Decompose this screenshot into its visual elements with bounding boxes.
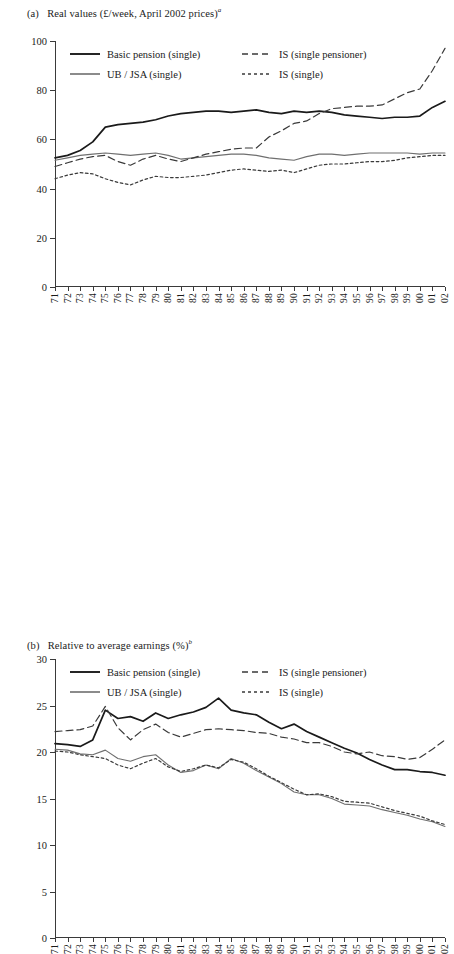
panel-a-footnote-marker: a bbox=[218, 6, 222, 14]
x-tick-label: 89 bbox=[276, 293, 286, 303]
y-tick-label: 60 bbox=[37, 134, 48, 145]
x-tick bbox=[445, 287, 446, 291]
y-tick-label: 20 bbox=[37, 747, 48, 758]
x-tick-label: 79 bbox=[151, 293, 161, 303]
x-tick-label: 96 bbox=[365, 293, 375, 303]
x-tick-label: 82 bbox=[188, 293, 198, 303]
y-tick-label: 15 bbox=[37, 793, 48, 804]
dashed-line-icon bbox=[242, 49, 272, 59]
legend-row: UB / JSA (single) IS (single) bbox=[70, 64, 366, 84]
y-tick-label: 5 bbox=[42, 886, 47, 897]
x-tick-label: 86 bbox=[239, 293, 249, 303]
solid-line-icon bbox=[70, 49, 100, 59]
x-tick bbox=[55, 287, 56, 291]
x-tick-label: 83 bbox=[201, 293, 211, 303]
x-tick-label: 75 bbox=[100, 944, 110, 954]
legend-item-is-single-pensioner: IS (single pensioner) bbox=[242, 49, 366, 60]
y-tick-label: 0 bbox=[42, 282, 47, 293]
x-tick bbox=[432, 938, 433, 942]
legend-label-is-single: IS (single) bbox=[279, 69, 323, 80]
x-tick-label: 91 bbox=[302, 944, 312, 954]
x-tick bbox=[156, 287, 157, 291]
legend-item-basic-pension: Basic pension (single) bbox=[70, 667, 242, 678]
y-tick-label: 25 bbox=[37, 700, 48, 711]
x-tick-label: 90 bbox=[289, 944, 299, 954]
panel-b-footnote-marker: b bbox=[189, 638, 193, 646]
legend-label-basic-pension: Basic pension (single) bbox=[107, 667, 200, 678]
x-tick bbox=[80, 938, 81, 942]
x-tick-label: 80 bbox=[163, 944, 173, 954]
panel-a-label: (a) bbox=[27, 8, 39, 19]
x-tick-label: 93 bbox=[327, 293, 337, 303]
legend-label-is-single-pensioner: IS (single pensioner) bbox=[279, 49, 366, 60]
x-tick-label: 81 bbox=[176, 293, 186, 303]
x-tick bbox=[407, 938, 408, 942]
x-tick bbox=[294, 938, 295, 942]
x-tick-label: 88 bbox=[264, 944, 274, 954]
x-tick-label: 02 bbox=[440, 944, 450, 954]
legend-row: UB / JSA (single) IS (single) bbox=[70, 682, 366, 702]
x-tick-label: 00 bbox=[415, 293, 425, 303]
x-tick-label: 98 bbox=[390, 293, 400, 303]
x-tick-label: 74 bbox=[88, 944, 98, 954]
legend-item-ub-jsa: UB / JSA (single) bbox=[70, 69, 242, 80]
x-tick bbox=[130, 287, 131, 291]
legend-b: Basic pension (single) IS (single pensio… bbox=[70, 662, 366, 702]
x-tick-label: 95 bbox=[352, 293, 362, 303]
x-tick bbox=[55, 938, 56, 942]
x-tick bbox=[105, 938, 106, 942]
x-tick bbox=[105, 287, 106, 291]
legend-item-is-single-pensioner: IS (single pensioner) bbox=[242, 667, 366, 678]
panel-b-label: (b) bbox=[27, 640, 40, 651]
x-tick bbox=[332, 938, 333, 942]
x-tick-label: 99 bbox=[402, 944, 412, 954]
x-tick bbox=[281, 287, 282, 291]
x-tick bbox=[281, 938, 282, 942]
x-tick bbox=[420, 938, 421, 942]
panel-a-title: (a) Real values (£/week, April 2002 pric… bbox=[27, 6, 221, 19]
x-tick-label: 96 bbox=[365, 944, 375, 954]
x-tick bbox=[395, 938, 396, 942]
x-tick bbox=[118, 938, 119, 942]
x-tick-label: 97 bbox=[377, 293, 387, 303]
legend-label-is-single: IS (single) bbox=[279, 687, 323, 698]
y-tick-label: 20 bbox=[37, 232, 48, 243]
x-tick bbox=[256, 938, 257, 942]
x-tick-label: 77 bbox=[125, 293, 135, 303]
panel-b-title-text: Relative to average earnings (%) bbox=[48, 640, 189, 651]
x-tick-label: 93 bbox=[327, 944, 337, 954]
x-tick bbox=[206, 287, 207, 291]
dotted-line-icon bbox=[242, 69, 272, 79]
x-tick-label: 80 bbox=[163, 293, 173, 303]
x-tick bbox=[294, 287, 295, 291]
x-tick-label: 73 bbox=[75, 944, 85, 954]
x-tick-label: 98 bbox=[390, 944, 400, 954]
x-tick bbox=[244, 938, 245, 942]
x-tick bbox=[382, 287, 383, 291]
legend-item-is-single: IS (single) bbox=[242, 687, 323, 698]
panel-a-title-text: Real values (£/week, April 2002 prices) bbox=[47, 8, 218, 19]
x-tick bbox=[445, 938, 446, 942]
x-tick bbox=[80, 287, 81, 291]
y-tick-label: 100 bbox=[31, 36, 47, 47]
x-tick bbox=[93, 938, 94, 942]
x-tick bbox=[357, 938, 358, 942]
x-tick-label: 78 bbox=[138, 944, 148, 954]
x-tick bbox=[319, 287, 320, 291]
x-tick-label: 82 bbox=[188, 944, 198, 954]
x-tick bbox=[168, 938, 169, 942]
x-tick bbox=[370, 938, 371, 942]
legend-label-is-single-pensioner: IS (single pensioner) bbox=[279, 667, 366, 678]
x-tick-label: 99 bbox=[402, 293, 412, 303]
x-tick bbox=[344, 938, 345, 942]
x-tick-label: 73 bbox=[75, 293, 85, 303]
panel-real-values: (a) Real values (£/week, April 2002 pric… bbox=[0, 0, 454, 318]
x-tick-label: 71 bbox=[50, 944, 60, 954]
x-tick-label: 87 bbox=[251, 293, 261, 303]
x-tick bbox=[357, 287, 358, 291]
x-tick bbox=[432, 287, 433, 291]
x-tick bbox=[143, 287, 144, 291]
legend-item-basic-pension: Basic pension (single) bbox=[70, 49, 242, 60]
legend-label-ub-jsa: UB / JSA (single) bbox=[107, 69, 181, 80]
x-tick bbox=[269, 938, 270, 942]
